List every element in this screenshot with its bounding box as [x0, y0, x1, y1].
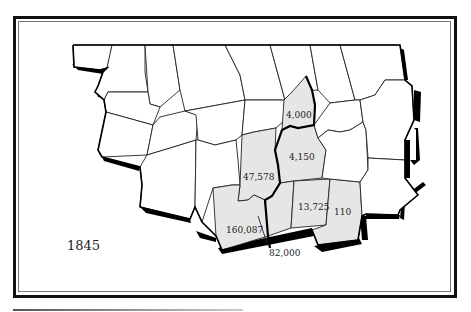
region-label-b: 4,150 [289, 152, 315, 162]
region-label-e: 82,000 [269, 248, 301, 258]
county [242, 100, 285, 135]
region-label-f: 13,725 [298, 202, 330, 212]
map-year-label: 1845 [67, 238, 100, 253]
region-label-a: 4,000 [286, 110, 312, 120]
region-label-d: 160,087 [226, 225, 263, 235]
region-label-c: 47,578 [243, 172, 275, 182]
county-map: 4,000 4,150 47,578 160,087 82,000 13,725… [0, 0, 471, 312]
region-label-g: 110 [334, 207, 351, 217]
county-region-c [238, 128, 280, 201]
county [73, 45, 112, 70]
